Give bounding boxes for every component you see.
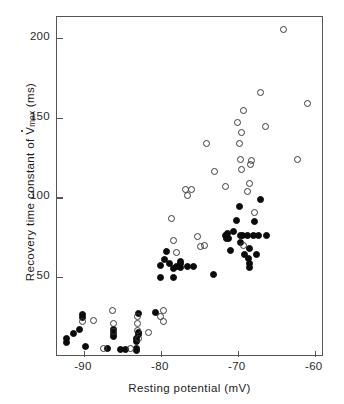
scatter-plot-figure: 50100150200 -90-80-70-60 Resting potenti… [0,0,344,404]
data-point-open [211,168,218,175]
data-point-open [173,249,180,256]
overdot-icon [21,130,23,132]
data-point-filled [263,232,270,239]
x-tick-label: -70 [214,360,260,372]
data-point-filled [236,203,243,210]
data-point-open [240,107,247,114]
data-point-open [304,100,311,107]
x-tick-label: -80 [137,360,183,372]
data-point-open [194,233,201,240]
data-point-filled [163,248,170,255]
x-tick-mark [161,351,162,357]
data-point-open [280,26,287,33]
data-point-filled [82,343,89,350]
data-point-open [168,215,175,222]
data-point-open [134,313,141,320]
y-tick-mark [57,197,63,198]
x-tick-mark [84,351,85,357]
data-point-open [109,307,116,314]
data-point-filled [190,263,197,270]
data-point-open [237,156,244,163]
data-point-filled [227,247,234,254]
data-point-open [262,123,269,130]
data-point-filled [233,217,240,224]
data-point-filled [225,235,232,242]
data-point-open [201,242,208,249]
data-point-open [184,192,191,199]
data-point-open [170,237,177,244]
y-axis-title-after: (ms) [24,83,36,111]
data-point-filled [210,271,217,278]
data-point-open [79,318,86,325]
data-point-filled [133,347,140,354]
x-tick-label: -60 [291,360,337,372]
data-point-filled [255,232,262,239]
data-point-open [160,307,167,314]
data-point-open [110,328,117,335]
data-point-open [134,320,141,327]
data-point-open [145,329,152,336]
y-tick-mark [57,118,63,119]
v-letter: V [24,127,36,135]
data-point-open [135,335,142,342]
x-tick-label: -90 [60,360,106,372]
data-point-open [110,320,117,327]
y-axis-title-subscript: max [28,111,37,127]
data-point-open [222,183,229,190]
data-point-open [248,157,255,164]
data-point-filled [170,274,177,281]
data-point-open [244,188,251,195]
data-point-open [257,89,264,96]
data-point-filled [246,264,253,271]
x-axis-title: Resting potential (mV) [56,382,323,394]
y-axis-title-before: Recovery time constant of [24,135,36,282]
data-point-open [238,129,245,136]
data-point-open [127,345,134,352]
data-point-filled [63,339,70,346]
data-point-open [294,156,301,163]
plot-area [56,16,323,356]
data-point-open [246,180,253,187]
data-point-filled [157,274,164,281]
y-tick-mark [57,277,63,278]
data-point-filled [230,228,237,235]
y-tick-mark [57,38,63,39]
data-point-open [90,317,97,324]
data-point-filled [76,326,83,333]
data-point-open [236,140,243,147]
x-tick-mark [315,351,316,357]
data-point-open [188,186,195,193]
data-point-filled [257,196,264,203]
data-point-open [238,166,245,173]
y-axis-title: Recovery time constant of Vmax (ms) [24,32,40,332]
data-point-open [160,318,167,325]
data-point-filled [253,251,260,258]
x-tick-mark [238,351,239,357]
v-dot-symbol: V [24,127,36,135]
data-point-open [203,140,210,147]
data-point-filled [251,218,258,225]
data-point-open [251,209,258,216]
data-point-open [234,119,241,126]
